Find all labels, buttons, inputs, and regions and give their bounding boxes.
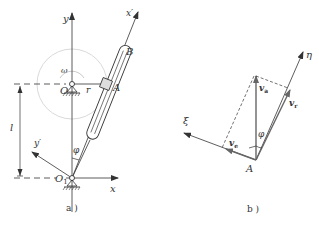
figure-a-mechanism: y x′ B A O r ω l y′ φ O1 x a ) [10, 8, 138, 213]
label-O1: O1 [55, 173, 68, 186]
label-eta: η [306, 49, 312, 60]
label-xi: ξ [183, 115, 189, 126]
label-phi-b: φ [258, 129, 265, 139]
caption-a: a ) [66, 203, 78, 213]
y-prime-axis [32, 152, 72, 178]
slotted-rocker-bar [85, 44, 133, 141]
label-x: x [110, 183, 116, 194]
vector-vr [256, 90, 290, 160]
label-x-prime: x′ [126, 8, 133, 18]
kinematics-diagram: y x′ B A O r ω l y′ φ O1 x a ) η ξ va [0, 0, 319, 227]
label-va: va [259, 83, 268, 94]
label-omega: ω [61, 66, 68, 75]
label-vr: vr [289, 98, 298, 109]
label-y: y [62, 13, 69, 24]
label-B: B [125, 46, 133, 57]
label-l: l [10, 122, 13, 133]
label-phi-a: φ [73, 145, 80, 155]
phi-arc [72, 158, 79, 160]
vector-ve [226, 149, 256, 160]
label-O: O [60, 85, 68, 96]
dashed-parallel-1 [222, 76, 254, 148]
caption-b: b ) [247, 204, 259, 214]
label-A: A [112, 82, 120, 93]
label-y-prime: y′ [33, 138, 41, 148]
label-r: r [86, 85, 91, 95]
phi-arc-b [256, 146, 262, 148]
label-A-b: A [245, 163, 253, 174]
figure-b-velocity-diagram: η ξ va vr ve φ A b ) [183, 49, 312, 214]
label-ve: ve [229, 138, 238, 149]
